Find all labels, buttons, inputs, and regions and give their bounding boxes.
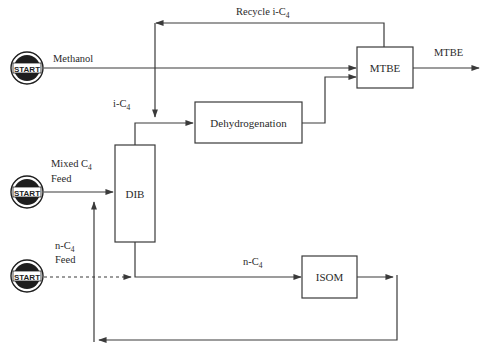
process-flow-diagram: START START START MTBE Dehydrogenation D…	[0, 0, 487, 353]
stream-nc4-to-isom	[135, 242, 301, 277]
unit-dehydrogenation-label: Dehydrogenation	[210, 117, 287, 129]
start-label: START	[14, 273, 40, 282]
unit-isom: ISOM	[302, 256, 357, 298]
unit-mtbe-label: MTBE	[370, 62, 401, 74]
start-icon-n-c4: START	[11, 260, 43, 292]
label-mixed-feed: Feed	[51, 173, 72, 184]
label-nc4: n-C4	[243, 256, 263, 270]
unit-dib: DIB	[115, 145, 155, 242]
start-icon-mixed-c4: START	[11, 176, 43, 208]
unit-dehydrogenation: Dehydrogenation	[195, 102, 302, 143]
start-label: START	[14, 65, 40, 74]
label-recycle-ic4: Recycle i-C4	[236, 6, 290, 20]
unit-isom-label: ISOM	[316, 271, 344, 283]
label-ic4: i-C4	[113, 98, 130, 112]
label-n-feed: Feed	[55, 254, 76, 265]
label-mixed-c4: Mixed C4	[51, 158, 92, 172]
stream-dehydro-to-mtbe	[302, 77, 356, 123]
start-label: START	[14, 189, 40, 198]
label-n-c4-feed: n-C4	[55, 240, 75, 254]
label-mtbe-product: MTBE	[434, 47, 463, 58]
stream-recycle-ic4	[156, 23, 384, 47]
label-methanol: Methanol	[53, 53, 93, 64]
unit-dib-label: DIB	[126, 188, 145, 200]
unit-mtbe: MTBE	[357, 47, 413, 88]
start-icon-methanol: START	[11, 52, 43, 84]
stream-ic4	[135, 123, 193, 145]
